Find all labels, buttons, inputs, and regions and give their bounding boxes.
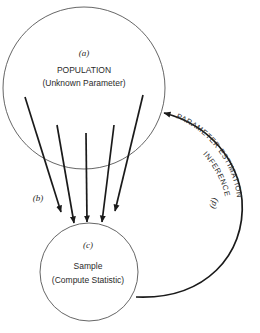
inference-tag: (d): [207, 197, 220, 210]
sampling-arrows: [25, 95, 143, 223]
sample-node: (c) Sample (Compute Statistic): [40, 223, 138, 321]
statistical-inference-diagram: (a) POPULATION (Unknown Parameter) (c) S…: [0, 0, 260, 333]
population-node: (a) POPULATION (Unknown Parameter): [3, 7, 165, 169]
population-tag: (a): [79, 48, 90, 58]
sampling-tag: (b): [33, 193, 44, 203]
sampling-arrow: [102, 125, 114, 222]
sample-subtitle: (Compute Statistic): [52, 275, 124, 285]
inference-arrow: [136, 113, 242, 297]
population-circle: [3, 7, 165, 169]
sample-circle: [40, 223, 138, 321]
sample-tag: (c): [83, 240, 93, 250]
sampling-arrow: [115, 95, 143, 211]
sampling-arrow: [86, 133, 87, 222]
population-title: POPULATION: [57, 65, 111, 75]
population-subtitle: (Unknown Parameter): [42, 78, 125, 88]
sample-title: Sample: [74, 261, 103, 271]
